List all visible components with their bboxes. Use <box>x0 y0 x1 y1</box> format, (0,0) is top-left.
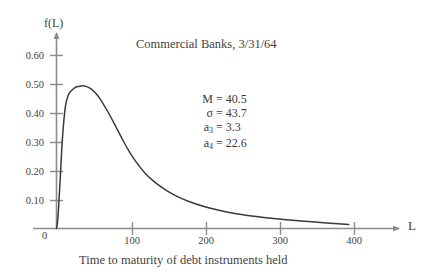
stat-symbol-a4: a4 <box>193 136 213 152</box>
stat-symbol-sigma: σ <box>193 106 213 120</box>
stat-row: a3= 3.3 <box>193 120 247 136</box>
x-axis-label: L <box>408 219 416 232</box>
stat-value-m: = 40.5 <box>213 92 247 106</box>
stat-value-a4: = 22.6 <box>213 136 247 150</box>
x-tick-label: 300 <box>265 236 295 247</box>
statistics-annotation: M= 40.5 σ= 43.7 a3= 3.3 a4= 22.6 <box>193 92 247 152</box>
x-tick-label: 400 <box>339 236 369 247</box>
x-tick-label-origin: 0 <box>42 231 47 242</box>
stat-value-sigma: = 43.7 <box>213 106 247 120</box>
x-axis-caption: Time to maturity of debt instruments hel… <box>79 254 288 267</box>
y-tick-label: 0.20 <box>14 167 44 178</box>
x-tick-label: 100 <box>117 236 147 247</box>
stat-row: a4= 22.6 <box>193 136 247 152</box>
stat-row: M= 40.5 <box>193 92 247 106</box>
y-tick-label: 0.30 <box>14 138 44 149</box>
y-tick-label: 0.10 <box>14 196 44 207</box>
y-tick-label: 0.60 <box>14 51 44 62</box>
y-tick-label: 0.50 <box>14 80 44 91</box>
stat-row: σ= 43.7 <box>193 106 247 120</box>
chart-figure: Commercial Banks, 3/31/64 f(L) L Time to… <box>0 0 429 277</box>
y-axis-label: f(L) <box>44 17 63 29</box>
x-tick-label: 200 <box>191 236 221 247</box>
y-tick-label: 0.40 <box>14 109 44 120</box>
stat-symbol-m: M <box>193 92 213 106</box>
chart-title: Commercial Banks, 3/31/64 <box>136 38 277 51</box>
stat-value-a3: = 3.3 <box>213 120 241 134</box>
stat-symbol-a3: a3 <box>193 120 213 136</box>
